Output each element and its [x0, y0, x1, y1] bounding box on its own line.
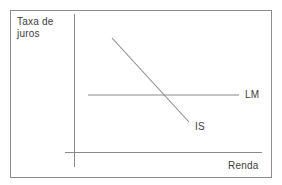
figure-canvas: Taxa de juros Renda LM IS: [0, 0, 282, 185]
y-axis-title-line-2: juros: [17, 28, 77, 40]
is-curve-label: IS: [195, 121, 205, 133]
is-curve: [112, 38, 189, 122]
y-axis-title-line-1: Taxa de: [17, 16, 77, 28]
lm-curve-label: LM: [245, 89, 259, 101]
y-axis-title: Taxa de juros: [17, 16, 77, 40]
x-axis-title: Renda: [228, 160, 258, 172]
